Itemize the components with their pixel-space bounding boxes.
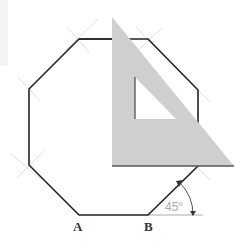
set-square [112, 17, 234, 166]
angle-label: 45° [165, 200, 183, 214]
vertex-b-label: B [144, 219, 153, 235]
vertex-a-label: A [73, 219, 82, 235]
octagon-construction-diagram [0, 0, 251, 251]
